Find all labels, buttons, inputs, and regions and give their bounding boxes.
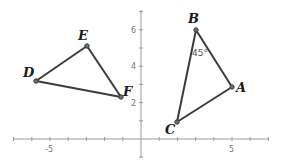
angle-b-label: 45° bbox=[192, 48, 208, 58]
vertex-a bbox=[230, 85, 234, 89]
vertex-e bbox=[85, 44, 89, 48]
y-tick-label-6: 6 bbox=[131, 26, 136, 35]
label-f: F bbox=[122, 84, 133, 99]
label-b: B bbox=[187, 11, 199, 26]
triangle-def: D E F bbox=[22, 28, 133, 99]
label-a: A bbox=[234, 80, 246, 95]
vertex-b bbox=[194, 28, 198, 32]
label-c: C bbox=[165, 122, 176, 137]
y-tick-label-2: 2 bbox=[131, 99, 136, 108]
vertex-d bbox=[34, 79, 38, 83]
vertex-c bbox=[175, 120, 179, 124]
triangle-abc-edges bbox=[177, 30, 232, 122]
label-e: E bbox=[77, 28, 89, 43]
triangle-abc: A B C 45° bbox=[165, 11, 246, 137]
y-tick-label-4: 4 bbox=[131, 62, 136, 71]
label-d: D bbox=[22, 65, 35, 80]
coordinate-plane: -5 5 2 4 6 D E F A B C 45° bbox=[0, 0, 282, 168]
triangle-def-edges bbox=[36, 46, 121, 97]
x-tick-label-5: 5 bbox=[229, 145, 234, 154]
x-tick-label-neg5: -5 bbox=[45, 145, 53, 154]
